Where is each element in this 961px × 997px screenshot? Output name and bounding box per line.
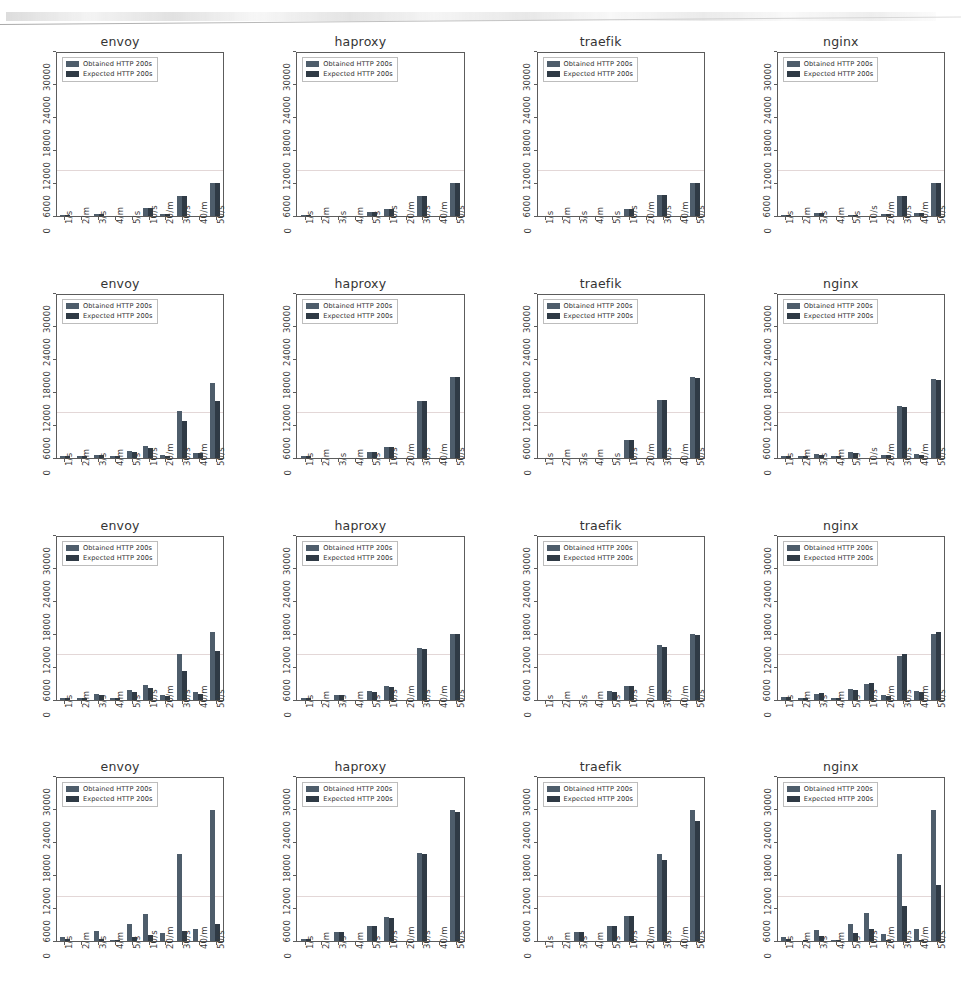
legend-label: Expected HTTP 200s [83, 70, 153, 78]
subplot-haproxy-row2: haproxy0600012000180002400030000Obtained… [240, 272, 480, 514]
legend-item-obtained: Obtained HTTP 200s [66, 544, 153, 552]
x-tick-label: 50/s [216, 205, 226, 224]
x-tick-label: 4/m [355, 449, 365, 466]
legend-item-obtained: Obtained HTTP 200s [787, 302, 874, 310]
y-tick-label: 30000 [523, 63, 533, 91]
y-tick-label: 30000 [523, 788, 533, 816]
x-tick-label: 30/s [903, 447, 913, 466]
y-axis: 0600012000180002400030000 [0, 536, 56, 701]
x-tick-label: 1/s [64, 694, 74, 707]
x-tick-label: 2/m [81, 932, 91, 949]
legend-swatch-obtained [306, 61, 319, 67]
x-tick-label: 3/s [338, 211, 348, 224]
x-axis: 1/s2/m3/s4/m5/s10/s20/m30/s40/m50/s [296, 944, 464, 996]
y-tick-label: 12000 [523, 404, 533, 432]
y-tick-label: 12000 [282, 887, 292, 915]
legend-label: Expected HTTP 200s [83, 312, 153, 320]
y-tick-label: 18000 [763, 129, 773, 157]
plot-axes: Obtained HTTP 200sExpected HTTP 200s [777, 52, 945, 217]
legend-label: Expected HTTP 200s [83, 554, 153, 562]
x-axis: 1/s2/m3/s4/m5/s10/s20/m30/s40/m50/s [296, 219, 464, 271]
subplot-title: haproxy [240, 518, 480, 533]
x-tick-label: 4/m [355, 207, 365, 224]
x-tick-label: 1/s [785, 211, 795, 224]
x-tick-label: 30/s [182, 447, 192, 466]
x-tick-label: 3/s [579, 936, 589, 949]
x-tick-label: 4/m [115, 690, 125, 707]
scan-ghost-line [538, 170, 704, 171]
x-tick-label: 50/s [696, 447, 706, 466]
x-tick-label: 30/s [422, 447, 432, 466]
legend-label: Obtained HTTP 200s [323, 544, 392, 552]
x-tick-label: 2/m [321, 932, 331, 949]
x-axis: 1/s2/m3/s4/m5/s10/s20/m30/s40/m50/s [537, 703, 705, 755]
x-tick-label: 3/s [579, 211, 589, 224]
legend-swatch-expected [787, 313, 800, 319]
subplot-title: traefik [481, 34, 721, 49]
x-tick-label: 10/s [629, 930, 639, 949]
subplot-title: traefik [481, 276, 721, 291]
legend-label: Obtained HTTP 200s [323, 60, 392, 68]
y-tick-label: 12000 [42, 404, 52, 432]
legend-item-obtained: Obtained HTTP 200s [306, 785, 393, 793]
subplot-title: haproxy [240, 34, 480, 49]
bar-expected [455, 377, 460, 458]
legend-label: Obtained HTTP 200s [83, 785, 152, 793]
plot-axes: Obtained HTTP 200sExpected HTTP 200s [777, 536, 945, 701]
subplot-traefik-row2: traefik0600012000180002400030000Obtained… [481, 272, 721, 514]
legend-swatch-expected [547, 555, 560, 561]
x-axis: 1/s2/m3/s4/m5/s10/s20/m30/s40/m50/s [777, 703, 945, 755]
legend-item-obtained: Obtained HTTP 200s [547, 544, 634, 552]
y-axis: 0600012000180002400030000 [0, 294, 56, 459]
subplot-nginx-row3: nginx0600012000180002400030000Obtained H… [721, 514, 961, 756]
legend-item-expected: Expected HTTP 200s [306, 795, 393, 803]
y-tick-label: 12000 [282, 646, 292, 674]
x-tick-label: 20/m [886, 926, 896, 949]
x-tick-label: 30/s [182, 205, 192, 224]
scan-ghost-line [57, 412, 223, 413]
x-tick-label: 1/s [545, 211, 555, 224]
y-tick-label: 24000 [523, 338, 533, 366]
legend-swatch-expected [66, 313, 79, 319]
x-tick-label: 3/s [98, 452, 108, 465]
x-tick-label: 5/s [372, 936, 382, 949]
y-tick-label: 0 [523, 953, 533, 959]
legend-label: Obtained HTTP 200s [804, 785, 873, 793]
legend-swatch-expected [66, 71, 79, 77]
subplot-envoy-row2: envoy0600012000180002400030000Obtained H… [0, 272, 240, 514]
y-tick-label: 6000 [42, 437, 52, 459]
y-tick-label: 30000 [42, 305, 52, 333]
bar-obtained [193, 929, 198, 941]
legend-swatch-obtained [547, 786, 560, 792]
x-tick-label: 10/s [869, 205, 879, 224]
x-tick-label: 10/s [629, 205, 639, 224]
y-axis: 0600012000180002400030000 [481, 294, 537, 459]
x-tick-label: 30/s [663, 689, 673, 708]
legend-item-expected: Expected HTTP 200s [306, 554, 393, 562]
x-tick-label: 20/m [165, 201, 175, 224]
y-tick-label: 18000 [282, 613, 292, 641]
x-tick-label: 1/s [305, 452, 315, 465]
y-tick-label: 12000 [523, 646, 533, 674]
legend-item-obtained: Obtained HTTP 200s [66, 60, 153, 68]
y-tick-label: 30000 [282, 788, 292, 816]
plot-axes: Obtained HTTP 200sExpected HTTP 200s [56, 52, 224, 217]
y-tick-label: 6000 [523, 195, 533, 217]
y-tick-label: 6000 [523, 920, 533, 942]
y-tick-label: 12000 [282, 162, 292, 190]
legend-label: Obtained HTTP 200s [83, 302, 152, 310]
chart-legend: Obtained HTTP 200sExpected HTTP 200s [543, 782, 639, 807]
x-tick-label: 1/s [305, 936, 315, 949]
legend-item-expected: Expected HTTP 200s [547, 554, 634, 562]
x-tick-label: 10/s [869, 689, 879, 708]
x-axis: 1/s2/m3/s4/m5/s10/s20/m30/s40/m50/s [537, 461, 705, 513]
y-tick-label: 18000 [42, 854, 52, 882]
legend-label: Expected HTTP 200s [323, 554, 393, 562]
y-tick-label: 24000 [763, 580, 773, 608]
y-tick-label: 0 [42, 712, 52, 718]
plot-axes: Obtained HTTP 200sExpected HTTP 200s [56, 294, 224, 459]
x-tick-label: 30/s [663, 205, 673, 224]
y-tick-label: 24000 [282, 338, 292, 366]
x-tick-label: 40/m [920, 443, 930, 466]
x-tick-label: 1/s [305, 694, 315, 707]
